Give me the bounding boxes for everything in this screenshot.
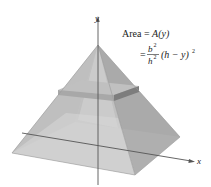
- formula-tail: (h − y): [161, 49, 190, 61]
- area-label: Area =: [122, 28, 152, 39]
- fraction-denominator: h: [148, 56, 153, 66]
- fraction-numerator-exponent: 2: [154, 42, 157, 48]
- y-axis-label: y: [94, 13, 99, 23]
- area-formula: Area = A(y) = b 2 h 2 (h − y) 2: [122, 28, 195, 66]
- x-axis-arrow-icon: [188, 159, 195, 163]
- x-axis-label: x: [196, 156, 201, 166]
- svg-text:Area = A(y): Area = A(y): [122, 28, 170, 40]
- pyramid-solid: [12, 45, 180, 175]
- formula-tail-exponent: 2: [192, 48, 195, 54]
- area-function: A(y): [151, 28, 170, 40]
- pyramid-figure: y x Area = A(y) = b 2 h 2 (h − y) 2: [0, 0, 211, 187]
- equals-sign: =: [140, 49, 146, 60]
- fraction-numerator: b: [148, 44, 153, 54]
- fraction-denominator-exponent: 2: [154, 54, 157, 60]
